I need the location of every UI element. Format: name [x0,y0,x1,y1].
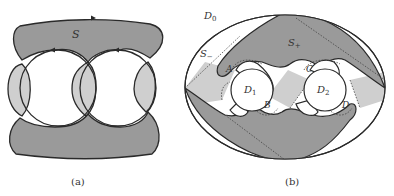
surface-top-band [14,20,163,62]
light-lens-left [8,64,30,116]
panel-b: D0 S+ S− D1 D2 A B C D (b) [185,10,385,187]
label-a: A [225,64,233,74]
label-c: C [306,64,313,74]
caption-b: (b) [285,176,299,187]
label-d: D [341,100,349,110]
surface-bottom-band [10,112,159,159]
caption-a: (a) [71,176,85,187]
label-b: B [263,100,271,110]
surface-label-s: S [72,28,80,41]
figure: S (a) [0,0,394,196]
label-d0: D0 [203,10,217,23]
panel-a: S (a) [8,16,163,188]
